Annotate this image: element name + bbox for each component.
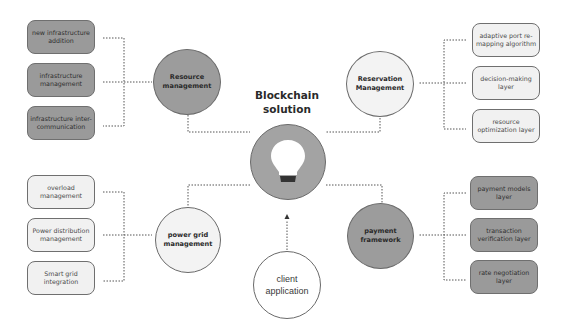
item-transaction-verification-layer: transaction verification layer [470, 218, 538, 252]
node-client-application: client application [253, 251, 321, 319]
item-infrastructure-inter-communication: infrastructure inter-communication [27, 106, 95, 140]
item-new-infrastructure-addition: new infrastructure addition [27, 20, 95, 54]
node-label: payment framework [356, 227, 406, 245]
node-resource-management: Resource management [153, 49, 221, 115]
item-overload-management: overload management [27, 175, 95, 209]
node-payment-framework: payment framework [347, 203, 414, 269]
item-payment-models-layer: payment models layer [470, 176, 538, 210]
node-label: Resource management [161, 73, 213, 91]
item-power-distribution-management: Power distribution management [27, 218, 95, 252]
node-label: power grid management [163, 231, 213, 249]
node-label: client application [262, 273, 312, 297]
diagram-title: Blockchain solution [237, 88, 337, 116]
arrowhead-up-client [285, 214, 290, 219]
item-rate-negotiation-layer: rate negotiation layer [470, 260, 538, 294]
item-infrastructure-management: infrastructure management [27, 63, 95, 97]
node-reservation-management: Reservation Management [346, 51, 414, 117]
lightbulb-icon [268, 138, 308, 186]
item-adaptive-port-remapping: adaptive port re-mapping algorithm [472, 23, 540, 57]
node-power-grid-management: power grid management [155, 207, 221, 273]
center-node [250, 124, 326, 200]
node-label: Reservation Management [353, 75, 407, 93]
item-decision-making-layer: decision-making layer [472, 66, 540, 100]
item-resource-optimization-layer: resource optimization layer [472, 109, 540, 143]
item-smart-grid-integration: Smart grid integration [27, 261, 95, 295]
